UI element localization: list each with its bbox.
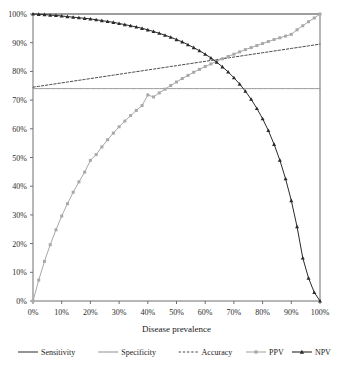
data-point-marker [54,228,57,231]
legend-label-sensitivity: Sensitivity [41,348,75,357]
series-ppv [32,13,322,303]
diagnostic-metrics-chart: 0%10%20%30%40%50%60%70%80%90%100%0%10%20… [0,0,341,366]
data-point-marker [278,158,282,162]
data-point-marker [209,62,212,65]
data-point-marker [32,300,35,303]
data-point-marker [278,36,281,39]
y-tick-label: 30% [12,211,27,220]
data-point-marker [141,104,144,107]
legend-label-npv: NPV [315,348,331,357]
y-tick-label: 90% [12,39,27,48]
x-tick-label: 50% [169,308,184,317]
data-point-marker [77,180,80,183]
data-point-marker [152,95,155,98]
data-point-marker [290,33,293,36]
y-tick-label: 100% [8,10,27,19]
data-point-marker [49,243,52,246]
data-point-marker [284,35,287,38]
data-point-marker [198,68,201,71]
data-point-marker [284,177,288,181]
data-point-marker [307,276,311,280]
x-tick-label: 20% [83,308,98,317]
data-point-marker [158,91,161,94]
chart-legend: SensitivitySpecificityAccuracyPPVNPV [18,348,331,357]
data-point-marker [175,81,178,84]
data-point-marker [312,290,316,294]
data-point-marker [289,199,293,203]
x-tick-label: 10% [54,308,69,317]
y-tick-label: 50% [12,154,27,163]
data-point-marker [112,132,115,135]
data-point-marker [60,215,63,218]
data-point-marker [186,74,189,77]
data-point-marker [227,55,230,58]
data-point-marker [301,256,305,260]
data-point-marker [250,46,253,49]
data-point-marker [43,260,46,263]
y-tick-label: 10% [12,268,27,277]
data-point-marker [301,24,304,27]
data-point-marker [164,88,167,91]
chart-canvas: 0%10%20%30%40%50%60%70%80%90%100%0%10%20… [0,0,341,366]
data-point-marker [272,142,276,146]
x-tick-label: 90% [284,308,299,317]
x-tick-label: 100% [311,308,330,317]
data-point-marker [307,20,310,23]
x-tick-label: 0% [28,308,39,317]
data-point-marker [221,57,224,60]
data-point-marker [106,138,109,141]
data-point-marker [244,48,247,51]
series-npv [31,12,322,303]
data-point-marker [89,159,92,162]
data-point-marker [146,93,149,96]
data-point-marker [100,145,103,148]
data-point-marker [192,71,195,74]
data-point-marker [204,65,207,68]
data-point-marker [129,114,132,117]
y-tick-label: 80% [12,67,27,76]
data-point-marker [66,202,69,205]
x-tick-label: 30% [112,308,127,317]
x-tick-label: 70% [227,308,242,317]
legend-label-ppv: PPV [269,348,284,357]
data-point-marker [181,77,184,80]
series-line-ppv [33,14,320,301]
legend-label-accuracy: Accuracy [202,348,233,357]
data-point-marker [37,279,40,282]
data-point-marker [295,225,299,229]
data-point-marker [123,120,126,123]
y-tick-label: 60% [12,125,27,134]
data-point-marker [319,13,322,16]
data-point-marker [313,17,316,20]
data-point-marker [266,129,270,133]
x-tick-label: 60% [198,308,213,317]
legend-item-accuracy[interactable]: Accuracy [179,348,233,357]
legend-item-specificity[interactable]: Specificity [98,348,156,357]
data-point-marker [261,117,265,121]
x-tick-label: 80% [255,308,270,317]
legend-item-npv[interactable]: NPV [292,348,331,357]
data-point-marker [135,109,138,112]
data-point-marker [232,53,235,56]
data-point-marker [203,52,207,56]
legend-item-sensitivity[interactable]: Sensitivity [18,348,75,357]
series-line-npv [33,14,320,301]
data-point-marker [255,44,258,47]
y-tick-label: 20% [12,240,27,249]
legend-label-specificity: Specificity [121,348,156,357]
data-point-marker [273,38,276,41]
data-point-marker [72,191,75,194]
data-point-marker [118,125,121,128]
data-point-marker [267,40,270,43]
y-tick-label: 70% [12,96,27,105]
data-point-marker [261,42,264,45]
data-point-marker [169,84,172,87]
legend-item-ppv[interactable]: PPV [246,348,284,357]
data-point-marker [95,153,98,156]
data-point-marker [238,50,241,53]
y-tick-label: 40% [12,182,27,191]
y-tick-label: 0% [16,297,27,306]
data-point-marker [296,28,299,31]
x-axis-title: Disease prevalence [142,324,211,334]
x-tick-label: 40% [140,308,155,317]
